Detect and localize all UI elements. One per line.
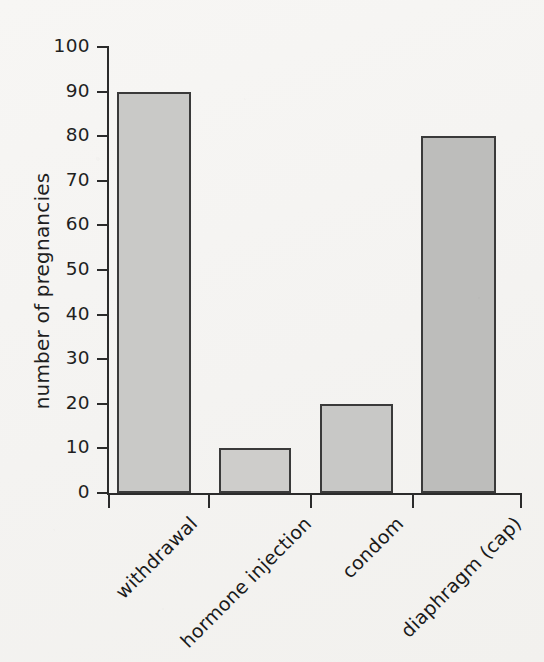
x-axis-line bbox=[107, 493, 522, 495]
figure-canvas: number of pregnancies 010203040506070809… bbox=[0, 0, 544, 662]
x-axis-tick-mark bbox=[310, 495, 312, 508]
bar-hormone-injection[interactable] bbox=[219, 448, 291, 493]
bar-diaphragm-cap-[interactable] bbox=[421, 136, 496, 493]
x-axis-label-hormone-injection: hormone injection bbox=[176, 512, 316, 652]
x-axis-tick-mark bbox=[412, 495, 414, 508]
x-axis-label-withdrawal: withdrawal bbox=[111, 512, 202, 603]
bar-chart-plot: number of pregnancies 010203040506070809… bbox=[0, 0, 544, 662]
bar-withdrawal[interactable] bbox=[117, 92, 191, 493]
x-axis-label-diaphragm-cap-: diaphragm (cap) bbox=[396, 512, 525, 641]
x-axis-tick-mark bbox=[520, 495, 522, 508]
bar-group bbox=[0, 0, 544, 493]
x-axis-label-condom: condom bbox=[337, 512, 407, 582]
bar-condom[interactable] bbox=[320, 404, 393, 493]
x-axis-tick-mark bbox=[108, 495, 110, 508]
x-axis-tick-mark bbox=[208, 495, 210, 508]
